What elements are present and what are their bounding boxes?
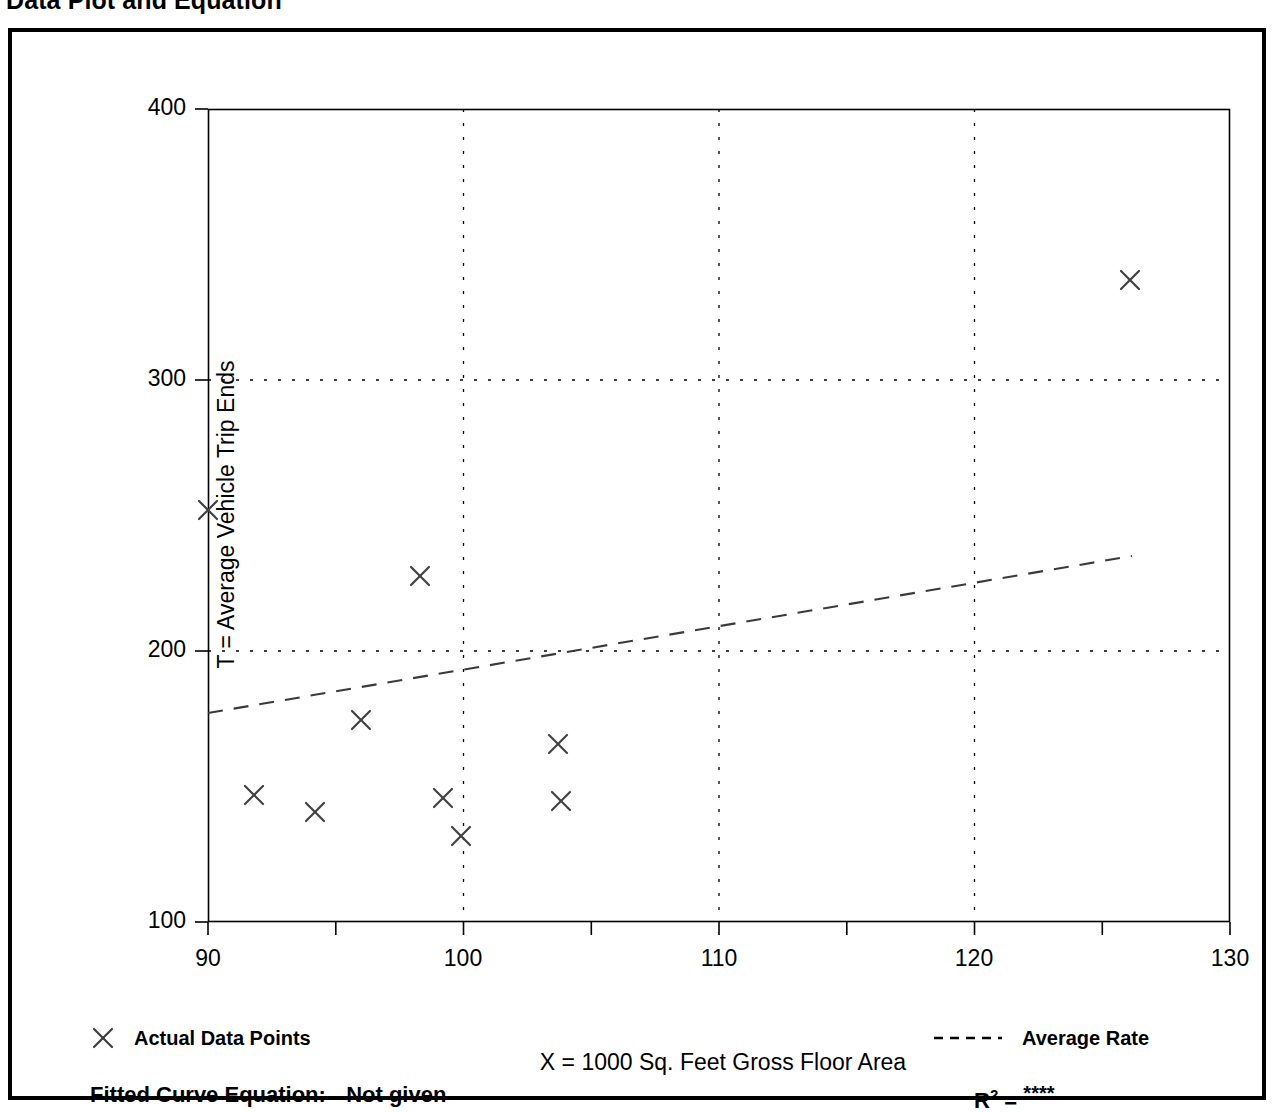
x-marker-icon bbox=[90, 1025, 116, 1051]
legend-item-actual-data-points: Actual Data Points bbox=[90, 1021, 311, 1055]
r-squared-value: R2 = **** bbox=[974, 1082, 1054, 1112]
page-title: Data Plot and Equation bbox=[6, 0, 282, 15]
figure-frame: 400 300 200 100 90 100 110 120 130 T = A… bbox=[8, 28, 1266, 1100]
data-point bbox=[352, 711, 370, 729]
vertical-gridlines bbox=[464, 109, 975, 922]
data-point bbox=[245, 786, 263, 804]
y-tick-label-300: 300 bbox=[116, 365, 186, 392]
average-rate-trend-line bbox=[208, 556, 1132, 713]
x-tick-label-90: 90 bbox=[168, 945, 248, 972]
data-point bbox=[434, 789, 452, 807]
legend-label-average-rate: Average Rate bbox=[1022, 1027, 1149, 1050]
fitted-curve-equation: Fitted Curve Equation: Not given bbox=[90, 1082, 446, 1108]
r-squared-symbol: R bbox=[974, 1088, 990, 1112]
data-point bbox=[549, 735, 567, 753]
data-point-markers bbox=[199, 271, 1139, 845]
data-point bbox=[1121, 271, 1139, 289]
plot-area: 400 300 200 100 90 100 110 120 130 T = A… bbox=[208, 109, 1230, 922]
legend-label-actual-data-points: Actual Data Points bbox=[134, 1027, 311, 1050]
data-point bbox=[452, 827, 470, 845]
chart-legend: Actual Data Points Average Rate bbox=[12, 1021, 1262, 1061]
r-squared-equals: = bbox=[1004, 1088, 1017, 1112]
data-point bbox=[552, 792, 570, 810]
fitted-curve-equation-value: Not given bbox=[346, 1082, 446, 1107]
y-axis-title: T = Average Vehicle Trip Ends bbox=[213, 235, 240, 795]
fitted-curve-equation-label: Fitted Curve Equation: bbox=[90, 1082, 326, 1107]
x-tick-label-130: 130 bbox=[1190, 945, 1270, 972]
data-point bbox=[306, 803, 324, 821]
r-squared-stars: **** bbox=[1023, 1082, 1054, 1104]
x-tick-label-120: 120 bbox=[934, 945, 1014, 972]
legend-item-average-rate: Average Rate bbox=[932, 1021, 1149, 1055]
r-squared-exponent: 2 bbox=[990, 1086, 998, 1103]
data-point bbox=[411, 567, 429, 585]
y-tick-label-100: 100 bbox=[116, 907, 186, 934]
dashed-line-icon bbox=[932, 1031, 1004, 1045]
x-tick-label-110: 110 bbox=[679, 945, 759, 972]
x-tick-label-100: 100 bbox=[423, 945, 503, 972]
plot-canvas bbox=[208, 109, 1230, 922]
y-tick-label-400: 400 bbox=[116, 94, 186, 121]
y-tick-label-200: 200 bbox=[116, 636, 186, 663]
x-axis-ticks bbox=[208, 922, 1230, 935]
equation-row: Fitted Curve Equation: Not given R2 = **… bbox=[12, 1078, 1262, 1112]
